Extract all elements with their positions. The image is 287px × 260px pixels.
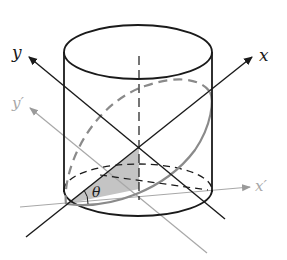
x-axis-label: x — [259, 45, 269, 65]
diagram-canvas: y x y′ x′ θ — [0, 0, 287, 260]
top-ellipse — [64, 25, 212, 79]
cylinder-diagram: y x y′ x′ θ — [0, 0, 287, 260]
x-prime-axis — [20, 187, 250, 207]
theta-label: θ — [92, 184, 101, 200]
x-prime-axis-label: x′ — [255, 177, 267, 195]
y-prime-axis-label: y′ — [11, 94, 24, 112]
y-prime-axis — [30, 108, 207, 253]
y-axis-label: y — [11, 42, 22, 62]
